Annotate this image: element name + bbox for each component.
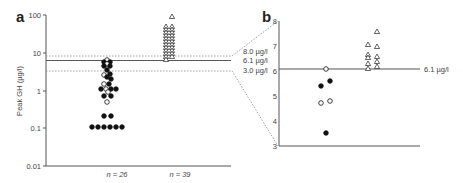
- panel-b-group1-markers: [319, 67, 333, 136]
- y-tick-0.1: 0.1: [31, 124, 41, 133]
- panel-b-y-ticks: 8 7 6 5 4 3: [273, 17, 277, 151]
- b-tick-4: 4: [273, 117, 277, 126]
- panel-b-group2-markers: [365, 29, 379, 71]
- panel-a-y-ticks: 100 10 1 0.1 0.01: [26, 11, 46, 171]
- group1-markers: [90, 58, 125, 130]
- label-6.1: 6.1 µg/l: [243, 56, 268, 65]
- panel-a: a 100 10 1 0.1 0.01 Peak GH (µg/l): [15, 8, 268, 179]
- panel-b: b 8 7 6 5 4 3 6.1 µg/l: [262, 8, 449, 151]
- panel-a-label: a: [16, 8, 25, 25]
- y-tick-10: 10: [33, 49, 41, 58]
- group2-markers: [163, 14, 174, 62]
- panel-b-label-6.1: 6.1 µg/l: [424, 65, 449, 74]
- y-axis-title: Peak GH (µg/l): [15, 66, 24, 116]
- b-tick-8: 8: [273, 17, 277, 26]
- n-group1: n = 26: [106, 170, 128, 179]
- y-tick-1: 1: [37, 87, 41, 96]
- zoom-connector-bottom: [232, 71, 278, 146]
- b-tick-6: 6: [273, 67, 277, 76]
- b-tick-3: 3: [273, 142, 277, 151]
- label-3.0: 3.0 µg/l: [243, 66, 268, 75]
- b-tick-5: 5: [273, 92, 277, 101]
- panel-b-label: b: [262, 8, 271, 25]
- label-8.0: 8.0 µg/l: [243, 47, 268, 56]
- b-tick-7: 7: [273, 42, 277, 51]
- y-tick-0.01: 0.01: [26, 162, 41, 171]
- y-tick-100: 100: [28, 11, 41, 20]
- figure: a 100 10 1 0.1 0.01 Peak GH (µg/l): [0, 0, 463, 183]
- n-group2: n = 39: [169, 170, 191, 179]
